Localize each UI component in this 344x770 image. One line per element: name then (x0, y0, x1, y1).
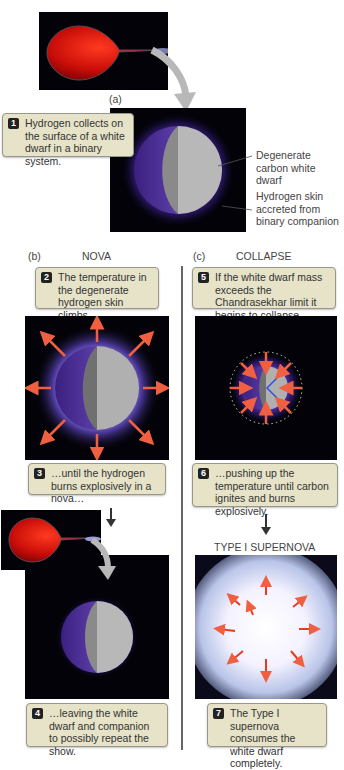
step-number-badge: 3 (34, 468, 45, 479)
supernova-title: TYPE I SUPERNOVA (214, 541, 315, 553)
caption-step-4: 4 …leaving the white dwarf and companion… (26, 703, 168, 747)
transfer-arrow-icon (84, 534, 124, 584)
caption-text: …until the hydrogen burns explosively in… (51, 467, 151, 504)
caption-text: …leaving the white dwarf and companion t… (49, 707, 149, 757)
caption-step-2: 2 The temperature in the degenerate hydr… (35, 267, 159, 309)
annotation-leader-lines (214, 150, 254, 220)
caption-step-5: 5 If the white dwarf mass exceeds the Ch… (192, 267, 336, 309)
nova-title: NOVA (82, 250, 111, 262)
caption-step-3: 3 …until the hydrogen burns explosively … (28, 463, 166, 495)
column-divider (181, 266, 183, 750)
step-number-badge: 6 (198, 468, 209, 479)
caption-text: The Type I supernova consumes the white … (230, 707, 295, 769)
step-number-badge: 4 (32, 708, 43, 719)
panel-c-label: (c) (193, 250, 205, 262)
step-number-badge: 5 (198, 272, 209, 283)
caption-text: If the white dwarf mass exceeds the Chan… (215, 271, 322, 321)
collapse-image (195, 316, 337, 460)
step-number-badge: 2 (41, 272, 52, 283)
down-arrow-icon (265, 514, 267, 528)
caption-text: The temperature in the degenerate hydrog… (58, 271, 147, 321)
transfer-arrow-icon (140, 38, 200, 118)
panel-a-label: (a) (109, 93, 122, 105)
caption-step-7: 7 The Type I supernova consumes the whit… (207, 703, 327, 747)
caption-text: …pushing up the temperature until carbon… (215, 467, 329, 517)
step-number-badge: 1 (8, 118, 19, 129)
caption-step-6: 6 …pushing up the temperature until carb… (192, 463, 338, 507)
supernova-image (195, 555, 337, 699)
panel-b-label: (b) (28, 250, 41, 262)
down-arrow-icon (110, 508, 112, 520)
nova-image (25, 316, 169, 460)
annotation-hydrogen-skin: Hydrogen skin accreted from binary compa… (256, 190, 344, 228)
step-number-badge: 7 (213, 708, 224, 719)
caption-step-1: 1 Hydrogen collects on the surface of a … (2, 113, 134, 157)
annotation-white-dwarf: Degenerate carbon white dwarf (256, 149, 336, 187)
collapse-title: COLLAPSE (236, 250, 291, 262)
